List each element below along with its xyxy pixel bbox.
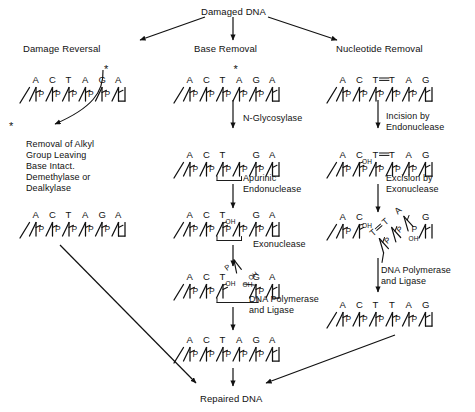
hydroxyl-label: OH — [226, 216, 236, 228]
base-letter: A — [187, 271, 193, 283]
asterisk-damage-marker: * — [104, 64, 108, 76]
phosphate-label: P — [226, 89, 232, 101]
arrow-to-nucleotide-removal — [268, 17, 337, 40]
phosphate-label: P — [259, 349, 265, 361]
phosphate-label: P — [362, 314, 368, 326]
hydroxyl-label: OH — [409, 233, 419, 245]
base-letter: A — [236, 74, 242, 86]
phosphate-label: P — [395, 314, 401, 326]
asterisk-damage-marker: * — [234, 64, 238, 76]
phosphate-label: P — [259, 224, 265, 236]
hydroxyl-label: OH — [362, 156, 372, 168]
phosphate-label: P — [105, 89, 111, 101]
phosphate-label: P — [412, 314, 418, 326]
base-letter: C — [356, 299, 363, 311]
base-letter: G — [422, 74, 430, 86]
note-alkyl-line4: Demethylase or — [26, 172, 90, 183]
phosphate-label: P — [379, 89, 385, 101]
note-alkyl-line3: Base Intact. — [26, 161, 75, 172]
base-letter: A — [236, 334, 242, 346]
base-letter: T — [220, 149, 226, 161]
phosphate-label: P — [259, 286, 265, 298]
base-letter: A — [340, 299, 346, 311]
base-letter: G — [422, 211, 430, 223]
base-letter: G — [99, 209, 107, 221]
base-letter: G — [253, 209, 261, 221]
phosphate-label: P — [209, 89, 215, 101]
base-letter: T — [389, 299, 395, 311]
phosphate-label: P — [346, 164, 352, 176]
note-alkyl-line2: Group Leaving — [26, 150, 86, 161]
enzyme-exonuclease: Exonuclease — [253, 239, 306, 250]
base-letter: G — [422, 299, 430, 311]
phosphate-label: P — [88, 89, 94, 101]
base-letter: A — [187, 334, 193, 346]
base-letter: A — [269, 209, 275, 221]
phosphate-label: P — [39, 224, 45, 236]
base-letter: A — [406, 299, 412, 311]
phosphate-label: P — [242, 164, 248, 176]
phosphate-label: P — [412, 164, 418, 176]
base-letter: A — [269, 149, 275, 161]
base-letter: T — [373, 149, 379, 161]
enzyme-dna-pol-ligase2-line2: and Ligase — [381, 276, 426, 287]
phosphate-label: P — [395, 164, 401, 176]
diagram-title-top: Damaged DNA — [201, 6, 266, 18]
phosphate-label: P — [193, 224, 199, 236]
base-letter: G — [99, 74, 107, 86]
base-letter: A — [33, 209, 39, 221]
base-letter: T — [66, 209, 72, 221]
base-letter: A — [340, 74, 346, 86]
phosphate-label: P — [379, 314, 385, 326]
phosphate-label: P — [193, 89, 199, 101]
base-letter: A — [406, 149, 412, 161]
base-letter: A — [115, 209, 121, 221]
base-letter: C — [203, 271, 210, 283]
phosphate-label: P — [209, 224, 215, 236]
base-letter: T — [389, 149, 395, 161]
base-letter: A — [269, 74, 275, 86]
note-alkyl-line5: Dealkylase — [26, 183, 71, 194]
enzyme-dna-pol-ligase-line2: and Ligase — [249, 305, 294, 316]
pathway-heading-nucleotide-removal: Nucleotide Removal — [336, 43, 423, 55]
base-letter: T — [220, 74, 226, 86]
base-letter: A — [340, 211, 346, 223]
phosphate-label: P — [72, 89, 78, 101]
phosphate-label: P — [242, 349, 248, 361]
phosphate-label: P — [193, 286, 199, 298]
base-letter: A — [82, 209, 88, 221]
base-letter: T — [373, 74, 379, 86]
base-letter: A — [187, 209, 193, 221]
arrow-alkyl-release — [55, 70, 103, 124]
phosphate-label: P — [346, 226, 352, 238]
base-letter: A — [33, 74, 39, 86]
released-alkyl-group-marker: * — [9, 121, 13, 133]
base-letter: C — [203, 334, 210, 346]
base-letter: C — [203, 149, 210, 161]
base-letter: G — [253, 74, 261, 86]
phosphate-label: P — [226, 164, 232, 176]
base-letter: C — [203, 74, 210, 86]
pathway-heading-damage-reversal: Damage Reversal — [23, 43, 101, 55]
base-letter: C — [49, 209, 56, 221]
base-letter: C — [203, 209, 210, 221]
enzyme-excision-line2: Exonuclease — [386, 184, 439, 195]
enzyme-dna-pol-ligase2-line1: DNA Polymerase — [381, 265, 451, 276]
hydroxyl-label: OH — [226, 278, 236, 290]
note-alkyl-line1: Removal of Alkyl — [26, 139, 94, 150]
base-letter: T — [389, 74, 395, 86]
enzyme-apurinic-line2: Endonuclease — [243, 184, 301, 195]
phosphate-label: P — [242, 224, 248, 236]
phosphate-label: P — [105, 224, 111, 236]
base-letter: G — [253, 149, 261, 161]
base-letter: A — [269, 334, 275, 346]
phosphate-label: P — [209, 286, 215, 298]
phosphate-label: P — [39, 89, 45, 101]
enzyme-n-glycosylase: N-Glycosylase — [243, 113, 302, 124]
diagram-vector-layer: TPTPA — [0, 0, 475, 412]
phosphate-label: P — [193, 349, 199, 361]
base-letter: A — [82, 74, 88, 86]
phosphate-label: P — [362, 89, 368, 101]
phosphate-label: P — [395, 89, 401, 101]
base-letter: A — [187, 149, 193, 161]
